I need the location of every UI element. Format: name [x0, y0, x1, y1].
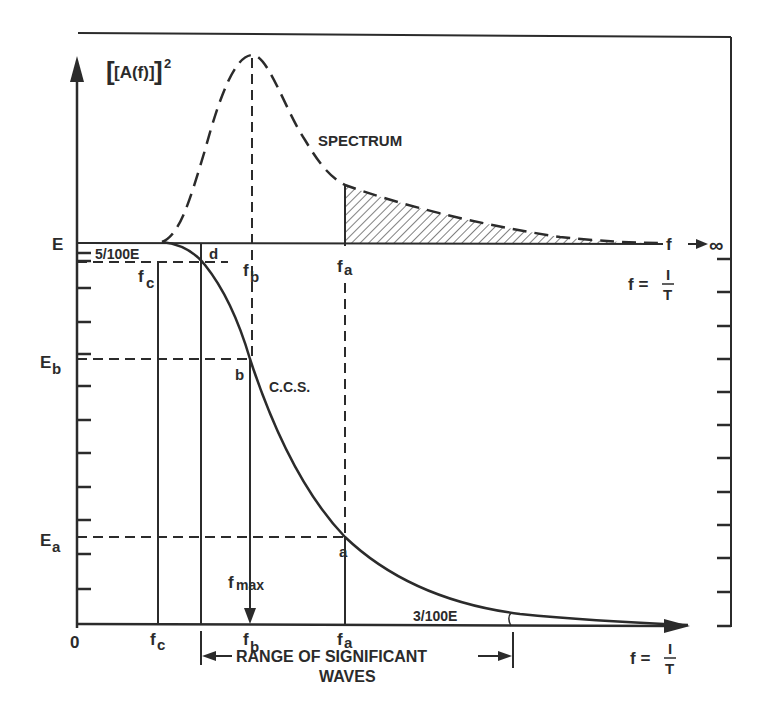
wave-spectrum-diagram: [ [A(f)] ] 2 SPECTRUM C.C.S. E E b E a 5…	[0, 0, 769, 718]
f-equals-label: f =	[628, 275, 648, 294]
fa-upper-label: f	[337, 257, 343, 276]
fc-upper-sub: c	[146, 274, 154, 291]
fmax-label: f	[228, 573, 234, 592]
y-axis-arrow-icon	[70, 56, 84, 82]
left-axis-ticks	[77, 253, 91, 589]
Eb-label-sub: b	[52, 360, 61, 377]
Ea-label-sub: a	[52, 538, 61, 555]
point-a-label: a	[339, 543, 348, 560]
three-percent-brace	[509, 613, 511, 626]
y-axis-bracket-close: ]	[154, 56, 163, 86]
f-infinity-arrow	[688, 239, 708, 249]
y-axis-label: [A(f)]	[114, 63, 155, 82]
Eb-label: E	[40, 353, 51, 372]
fc-bottom-sub: c	[157, 636, 165, 653]
point-b-label: b	[235, 366, 244, 383]
right-arrow-icon	[498, 651, 512, 661]
f-infinity-f: f	[666, 235, 672, 254]
origin-label: 0	[70, 633, 79, 652]
numerator-label: I	[668, 640, 672, 657]
down-arrow-icon	[244, 608, 256, 624]
y-axis	[70, 56, 84, 628]
Ea-label: E	[40, 531, 51, 550]
infinity-symbol: ∞	[709, 234, 723, 256]
point-d-label: d	[209, 245, 218, 262]
fa-bottom-label: f	[337, 630, 343, 649]
fb-bottom-label: f	[243, 630, 249, 649]
right-axis-ticks	[717, 259, 731, 626]
right-arrow-icon	[696, 239, 708, 249]
numerator-label: I	[666, 266, 670, 283]
fb-upper-label: f	[243, 261, 249, 280]
fc-upper-label: f	[138, 267, 144, 286]
denominator-label: T	[663, 286, 672, 303]
E-label: E	[52, 235, 63, 254]
left-arrow-icon	[202, 651, 216, 661]
fmax-sub: max	[236, 577, 264, 593]
five-percent-label: 5/100E	[95, 246, 139, 262]
y-axis-label-exponent: 2	[164, 56, 171, 71]
fb-upper-sub: b	[250, 268, 259, 285]
range-label-line1: RANGE OF SIGNIFICANT	[236, 648, 427, 665]
fmax-arrow	[244, 598, 256, 624]
fa-upper-sub: a	[344, 261, 353, 278]
three-percent-label: 3/100E	[413, 608, 457, 624]
dashed-guides	[77, 58, 345, 537]
f-equals-one-over-T-lower: f = I T	[630, 640, 676, 677]
spectrum-tail-hatch	[345, 180, 665, 244]
denominator-label: T	[665, 660, 674, 677]
spectrum-label: SPECTRUM	[318, 132, 402, 149]
range-label-line2: WAVES	[319, 668, 376, 685]
fc-bottom-label: f	[150, 630, 156, 649]
ccs-curve	[162, 242, 688, 625]
f-equals-one-over-T-upper: f = I T	[628, 266, 674, 303]
f-equals-label: f =	[630, 649, 650, 668]
ccs-label: C.C.S.	[269, 379, 310, 395]
